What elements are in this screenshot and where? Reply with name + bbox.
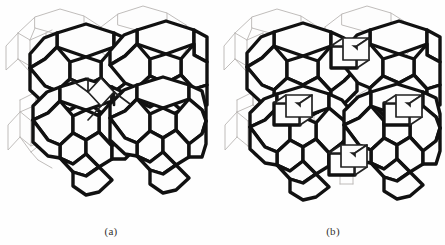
caption-a: (a) xyxy=(0,225,222,237)
caption-b: (b) xyxy=(222,225,444,237)
sodalite-framework-drawing xyxy=(0,0,222,212)
figure-container: (a) xyxy=(0,0,445,245)
zeolite-a-framework-drawing xyxy=(222,0,445,212)
diagram-panel-b: (b) xyxy=(222,0,444,245)
cage-bottom-right-a xyxy=(110,77,206,193)
diagram-panel-a: (a) xyxy=(0,0,222,245)
